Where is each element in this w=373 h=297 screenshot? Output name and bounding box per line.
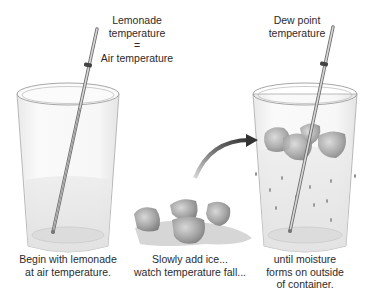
caption-moisture: until moisture forms on outside of conta…: [255, 253, 355, 291]
label-line: temperature: [262, 27, 332, 40]
curved-arrow: [195, 134, 258, 178]
label-dew-point-temperature: Dew point temperature: [262, 14, 332, 39]
label-line: Air temperature: [97, 52, 177, 65]
label-line: Dew point: [262, 14, 332, 27]
caption-begin: Begin with lemonade at air temperature.: [8, 253, 128, 278]
caption-add-ice: Slowly add ice... watch temperature fall…: [130, 253, 250, 278]
caption-line: Slowly add ice...: [130, 253, 250, 266]
ice-pile: [134, 199, 252, 246]
label-lemonade-air-temperature: Lemonade temperature = Air temperature: [97, 14, 177, 64]
caption-line: of container.: [255, 278, 355, 291]
caption-line: at air temperature.: [8, 266, 128, 279]
label-line: =: [97, 39, 177, 52]
caption-line: forms on outside: [255, 266, 355, 279]
caption-line: until moisture: [255, 253, 355, 266]
label-line: temperature: [97, 27, 177, 40]
caption-line: watch temperature fall...: [130, 266, 250, 279]
label-line: Lemonade: [97, 14, 177, 27]
caption-line: Begin with lemonade: [8, 253, 128, 266]
